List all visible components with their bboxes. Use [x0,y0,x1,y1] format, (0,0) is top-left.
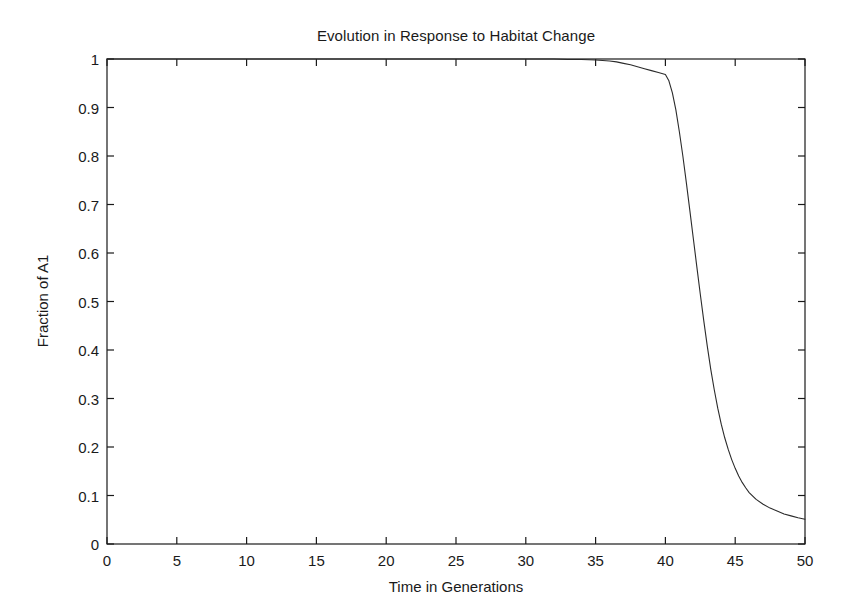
x-axis-tick-label: 40 [657,552,674,569]
x-axis-tick-label: 35 [587,552,604,569]
x-axis-tick-label: 15 [308,552,325,569]
y-axis-tick-label: 0.8 [49,148,99,165]
x-axis-tick-label: 5 [173,552,181,569]
x-axis-tick-label: 0 [103,552,111,569]
x-axis-tick-label: 50 [797,552,814,569]
x-axis-tick-label: 30 [517,552,534,569]
y-axis-tick-label: 0.4 [49,342,99,359]
figure-canvas: Evolution in Response to Habitat Change … [0,0,852,611]
y-axis-tick-label: 0.1 [49,487,99,504]
y-axis-tick-label: 0.2 [49,439,99,456]
x-axis-tick-label: 20 [378,552,395,569]
x-axis-tick-label: 45 [727,552,744,569]
y-axis-label: Fraction of A1 [34,255,51,348]
y-axis-tick-label: 0.3 [49,390,99,407]
chart-title: Evolution in Response to Habitat Change [107,27,805,44]
y-axis-tick-label: 0.9 [49,99,99,116]
y-axis-tick-label: 0 [49,536,99,553]
y-axis-tick-label: 0.7 [49,196,99,213]
axis-ticks [107,59,805,544]
x-axis-tick-label: 10 [238,552,255,569]
y-axis-tick-label: 1 [49,51,99,68]
x-axis-tick-label: 25 [448,552,465,569]
plot-svg [0,0,852,611]
x-axis-label: Time in Generations [107,578,805,595]
y-axis-tick-label: 0.6 [49,245,99,262]
data-line-series-0 [107,59,805,519]
y-axis-tick-label: 0.5 [49,293,99,310]
axes-frame [107,59,805,544]
data-series-layer [107,59,805,519]
